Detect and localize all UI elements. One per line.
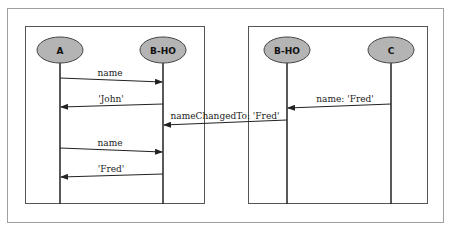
actor-a-label: A xyxy=(57,46,64,56)
actor-bho-left-label: B-HO xyxy=(150,46,176,56)
message-name-1: name xyxy=(60,68,162,82)
actor-bho-right: B-HO xyxy=(264,37,310,63)
actor-a: A xyxy=(37,37,83,63)
arrow-right-icon xyxy=(60,78,162,82)
arrow-left-icon xyxy=(61,174,163,177)
message-label: 'John' xyxy=(98,94,124,104)
arrow-left-icon xyxy=(61,104,163,107)
message-name-2: name xyxy=(60,138,162,152)
actor-c: C xyxy=(368,37,414,63)
actor-bho-left: B-HO xyxy=(140,37,186,63)
message-fred: 'Fred' xyxy=(61,164,163,177)
message-label: nameChangedTo: 'Fred' xyxy=(171,111,280,121)
message-label: name xyxy=(97,68,122,78)
message-name-changed-to: nameChangedTo: 'Fred' xyxy=(164,111,287,125)
actor-c-label: C xyxy=(388,46,395,56)
message-john: 'John' xyxy=(61,94,163,107)
actor-bho-right-label: B-HO xyxy=(274,46,300,56)
message-label: name: 'Fred' xyxy=(316,94,374,104)
arrow-left-icon xyxy=(288,104,391,108)
message-label: 'Fred' xyxy=(98,164,125,174)
message-label: name xyxy=(97,138,122,148)
message-name-fred: name: 'Fred' xyxy=(288,94,391,108)
sequence-diagram: A B-HO B-HO C name 'John' name 'Fred' na… xyxy=(0,0,451,231)
arrow-right-icon xyxy=(60,148,162,152)
